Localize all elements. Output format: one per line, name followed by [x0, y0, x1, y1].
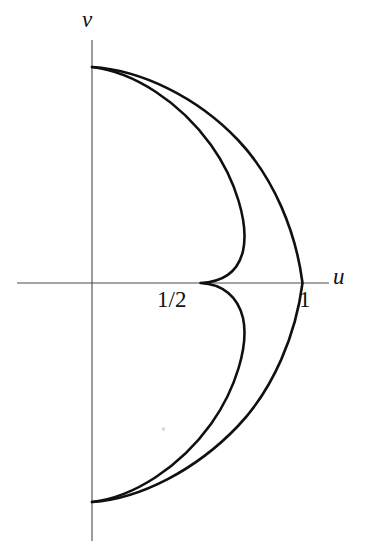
axis-label-u: u: [333, 265, 345, 288]
axis-label-v: v: [82, 8, 92, 31]
inner-curve-path: [92, 67, 244, 502]
plot-canvas: [0, 0, 365, 555]
figure-container: v u 1/2 1: [0, 0, 365, 555]
tick-label-one-half: 1/2: [157, 288, 186, 311]
scan-artifact-speck: [162, 427, 165, 431]
outer-curve-path: [92, 67, 303, 502]
tick-label-one: 1: [299, 288, 311, 311]
